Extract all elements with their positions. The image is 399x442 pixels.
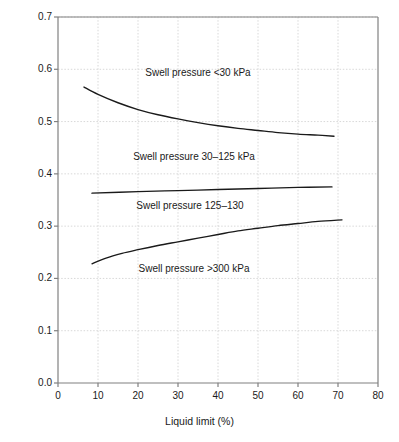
- y-tick-label: 0.4: [20, 169, 52, 179]
- x-axis-title: Liquid limit (%): [0, 415, 399, 427]
- x-tick-label: 40: [212, 391, 223, 401]
- x-tick-label: 70: [332, 391, 343, 401]
- y-tick-label: 0.2: [20, 273, 52, 283]
- y-tick-label: 0.6: [20, 64, 52, 74]
- x-tick-label: 50: [252, 391, 263, 401]
- y-tick-label: 0.5: [20, 117, 52, 127]
- data-curves: [84, 87, 342, 264]
- curve-0: [84, 87, 334, 136]
- curve-annotation-label: Swell pressure 125–130: [136, 201, 243, 211]
- x-tick-label: 10: [92, 391, 103, 401]
- x-tick-label: 60: [292, 391, 303, 401]
- swell-index-chart: 0.00.10.20.30.40.50.60.7 010203040506070…: [0, 0, 399, 442]
- y-tick-label: 0.3: [20, 221, 52, 231]
- y-tick-label: 0.0: [20, 378, 52, 388]
- curve-annotation-label: Swell pressure >300 kPa: [139, 264, 250, 274]
- curve-1: [92, 187, 332, 193]
- y-tick-label: 0.1: [20, 326, 52, 336]
- x-tick-label: 0: [55, 391, 61, 401]
- x-tick-label: 20: [132, 391, 143, 401]
- x-tick-label: 80: [372, 391, 383, 401]
- y-tick-label: 0.7: [20, 12, 52, 22]
- curve-annotation-label: Swell pressure 30–125 kPa: [133, 152, 255, 162]
- curve-annotation-label: Swell pressure <30 kPa: [145, 68, 250, 78]
- x-tick-label: 30: [172, 391, 183, 401]
